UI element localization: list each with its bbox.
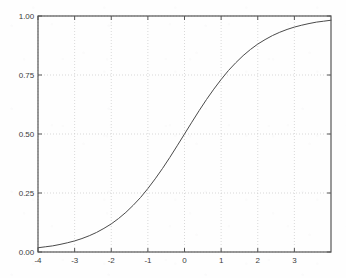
x-axis-tick-label: 1: [219, 256, 223, 265]
x-axis-tick-label: 2: [256, 256, 260, 265]
x-axis-tick-label: -2: [108, 256, 115, 265]
y-axis-tick-label: 0.50: [6, 130, 34, 139]
x-axis-tick-label: -4: [35, 256, 42, 265]
y-axis-tick-label: 0.00: [6, 248, 34, 257]
x-axis-tick-label: -3: [71, 256, 78, 265]
sigmoid-plot: [0, 0, 346, 278]
chart-figure: 0.000.250.500.751.00 -4-3-2-10123: [0, 0, 346, 278]
y-axis-tick-label: 0.75: [6, 71, 34, 80]
x-axis-tick-label: 3: [292, 256, 296, 265]
x-axis-tick-label: 0: [182, 256, 186, 265]
y-axis-tick-label: 1.00: [6, 12, 34, 21]
x-axis-tick-label: -1: [144, 256, 151, 265]
y-axis-tick-label: 0.25: [6, 189, 34, 198]
